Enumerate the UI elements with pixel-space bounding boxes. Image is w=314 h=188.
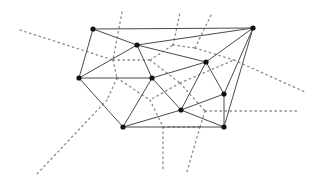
voronoi-edge	[36, 100, 107, 175]
node-H	[120, 124, 125, 129]
voronoi-edge	[186, 127, 200, 175]
node-I	[178, 107, 183, 112]
voronoi-edge	[150, 83, 180, 100]
voronoi-edge	[234, 60, 305, 92]
node-C	[76, 75, 81, 80]
edge-F-I	[181, 62, 206, 110]
edge-D-I	[152, 78, 181, 110]
voronoi-edge	[113, 12, 122, 60]
voronoi-edge	[173, 45, 195, 48]
node-F	[203, 59, 208, 64]
node-A	[90, 26, 95, 31]
voronoi-edge	[195, 48, 234, 60]
edge-C-H	[79, 78, 123, 127]
voronoi-edge	[107, 78, 117, 100]
edge-D-F	[152, 62, 206, 78]
voronoi-edge	[195, 13, 212, 48]
edge-E-J	[224, 28, 253, 127]
edge-B-E	[137, 28, 253, 45]
edge-A-C	[79, 29, 93, 78]
edge-B-D	[137, 45, 152, 78]
voronoi-edge	[173, 13, 180, 45]
node-D	[149, 75, 154, 80]
node-E	[250, 25, 255, 30]
edge-F-G	[206, 62, 224, 94]
voronoi-dotted-lines	[20, 12, 305, 175]
node-J	[221, 124, 226, 129]
node-B	[134, 42, 139, 47]
edge-G-I	[181, 94, 224, 110]
voronoi-edge	[113, 60, 117, 78]
edge-B-C	[79, 45, 137, 78]
delaunay-diagram	[0, 0, 314, 188]
voronoi-edge	[150, 45, 173, 60]
edge-I-J	[181, 110, 224, 127]
triangulation-edges	[79, 28, 253, 127]
edge-A-B	[93, 29, 137, 45]
voronoi-edge	[150, 100, 163, 127]
voronoi-edge	[20, 30, 113, 60]
node-G	[221, 91, 226, 96]
edge-A-E	[93, 28, 253, 29]
